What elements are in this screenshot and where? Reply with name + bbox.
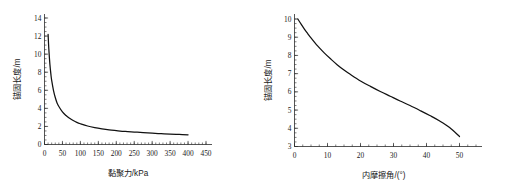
y-ticks-friction-angle	[295, 19, 299, 147]
y-tick-label: 4	[288, 124, 292, 133]
y-tick-label: 4	[38, 104, 42, 113]
axis-spines	[295, 14, 483, 147]
axes-friction-angle: 01020304050 345678910	[284, 14, 482, 160]
x-ticks-friction-angle	[295, 143, 477, 147]
figure-container: 050100150200250300350400450 02468101214 …	[0, 0, 512, 184]
axes-cohesion: 050100150200250300350400450 02468101214	[34, 14, 212, 158]
x-tick-label: 350	[165, 149, 176, 158]
y-tick-labels-friction-angle: 345678910	[284, 15, 292, 152]
x-tick-labels-friction-angle: 01020304050	[293, 151, 464, 160]
x-axis-title-cohesion: 黏聚力/kPa	[108, 168, 149, 178]
y-tick-label: 10	[284, 15, 292, 24]
x-tick-label: 450	[200, 149, 211, 158]
y-ticks-cohesion	[45, 18, 49, 145]
y-tick-label: 9	[288, 33, 292, 42]
y-tick-label: 8	[288, 51, 292, 60]
y-tick-label: 5	[288, 106, 292, 115]
y-axis-title-friction-angle: 锚固长度/m	[263, 59, 273, 100]
x-tick-label: 100	[75, 149, 86, 158]
x-tick-label: 300	[147, 149, 158, 158]
x-axis-title-friction-angle: 内摩擦角/(°)	[362, 170, 405, 180]
chart-panel-cohesion: 050100150200250300350400450 02468101214 …	[0, 0, 256, 184]
y-tick-label: 2	[38, 122, 42, 131]
y-tick-label: 6	[288, 87, 292, 96]
x-tick-labels-cohesion: 050100150200250300350400450	[43, 149, 212, 158]
x-tick-label: 400	[183, 149, 194, 158]
x-tick-label: 50	[59, 149, 67, 158]
y-tick-labels-cohesion: 02468101214	[34, 14, 42, 150]
x-ticks-cohesion	[45, 141, 207, 145]
data-curve-friction-angle	[298, 19, 460, 136]
x-tick-label: 0	[293, 151, 297, 160]
axis-spines	[45, 14, 213, 145]
x-tick-label: 20	[357, 151, 365, 160]
x-tick-label: 10	[324, 151, 332, 160]
y-tick-label: 7	[288, 69, 292, 78]
x-tick-label: 250	[129, 149, 140, 158]
y-tick-label: 8	[38, 68, 42, 77]
x-tick-label: 150	[93, 149, 104, 158]
y-tick-label: 6	[38, 86, 42, 95]
y-tick-label: 12	[34, 32, 42, 41]
x-tick-label: 200	[111, 149, 122, 158]
y-tick-label: 14	[34, 14, 42, 23]
y-axis-title-cohesion: 锚固长度/m	[12, 58, 22, 99]
chart-friction-angle-svg: 01020304050 345678910 内摩擦角/(°) 锚固长度/m	[256, 0, 512, 184]
y-tick-label: 0	[38, 140, 42, 149]
y-tick-label: 3	[288, 142, 292, 151]
x-tick-label: 0	[43, 149, 47, 158]
x-tick-label: 50	[456, 151, 464, 160]
y-tick-label: 10	[34, 50, 42, 59]
x-tick-label: 40	[423, 151, 431, 160]
x-tick-label: 30	[390, 151, 398, 160]
data-curve-cohesion	[48, 34, 188, 135]
chart-panel-friction-angle: 01020304050 345678910 内摩擦角/(°) 锚固长度/m	[256, 0, 512, 184]
chart-cohesion-svg: 050100150200250300350400450 02468101214 …	[0, 0, 256, 184]
